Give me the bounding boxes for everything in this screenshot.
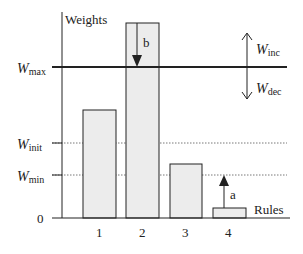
w-max-label: Wmax <box>17 61 46 77</box>
bar-label-4: 4 <box>225 225 232 240</box>
annotation-b: b <box>143 35 150 50</box>
bar-label-1: 1 <box>96 225 103 240</box>
x-axis-label: Rules <box>254 202 284 217</box>
w-dec-label: Wdec <box>256 81 282 97</box>
w-init-label: Winit <box>17 137 42 153</box>
bar-rule-1 <box>83 110 116 218</box>
annotation-a: a <box>230 187 236 202</box>
weights-diagram: Weights Wmax Winit Wmin 0 Winc Wdec b a … <box>0 0 303 254</box>
w-inc-label: Winc <box>256 42 280 58</box>
y-axis-label: Weights <box>65 12 107 27</box>
bar-rule-2 <box>126 23 159 218</box>
arrow-up-icon <box>219 175 229 186</box>
w-min-label: Wmin <box>17 169 44 185</box>
bar-rule-3 <box>170 164 202 218</box>
bar-label-3: 3 <box>182 225 189 240</box>
bar-rule-4 <box>213 208 246 218</box>
bar-label-2: 2 <box>139 225 146 240</box>
zero-label: 0 <box>37 211 44 226</box>
